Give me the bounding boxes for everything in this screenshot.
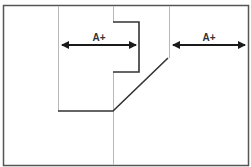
dimension-label-right: A+ [202, 32, 215, 43]
outer-border [4, 6, 249, 166]
diagram-canvas: A+ A+ [0, 0, 251, 167]
dimension-label-left: A+ [92, 32, 105, 43]
